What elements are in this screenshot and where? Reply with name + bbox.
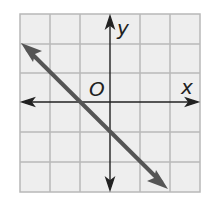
y-axis-label: y <box>117 18 129 38</box>
coordinate-graph <box>0 0 212 205</box>
origin-label: O <box>89 79 105 99</box>
x-axis-label: x <box>181 77 193 97</box>
